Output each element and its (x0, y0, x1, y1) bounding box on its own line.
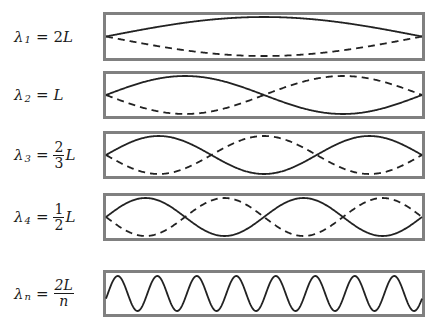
string-panel-hn (103, 270, 425, 317)
dashed-wave-curve (106, 136, 422, 174)
solid-wave-curve (106, 198, 422, 236)
harmonic-subscript: 3 (25, 153, 31, 164)
wavelength-value: L (65, 146, 75, 164)
solid-wave-curve (106, 276, 422, 311)
wavelength-label-hn: λ n = 2L n (14, 274, 75, 314)
lambda-symbol: λ (14, 86, 24, 104)
dashed-wave-curve (106, 37, 422, 57)
string-panel-h3 (103, 131, 425, 179)
wavelength-label-h1: λ 1 = 2L (14, 17, 73, 57)
harmonic-subscript: 4 (25, 215, 31, 226)
solid-wave-curve (106, 76, 422, 114)
wavelength-value: 2L (53, 28, 73, 46)
lambda-symbol: λ (14, 285, 24, 303)
standing-wave-plot (106, 15, 422, 58)
wavelength-label-h4: λ 4 = 1 2 L (14, 197, 75, 237)
fraction-numerator: 2 (53, 140, 64, 156)
lambda-symbol: λ (14, 208, 24, 226)
wavelength-label-h3: λ 3 = 2 3 L (14, 135, 75, 175)
equals-sign: = (36, 86, 49, 104)
fraction-numerator: 1 (53, 202, 64, 218)
equals-sign: = (36, 285, 49, 303)
standing-wave-plot (106, 273, 422, 314)
harmonic-subscript: 1 (25, 34, 31, 45)
wavelength-label-h2: λ 2 = L (14, 75, 63, 115)
equals-sign: = (36, 28, 49, 46)
lambda-symbol: λ (14, 146, 24, 164)
lambda-symbol: λ (14, 28, 24, 46)
solid-wave-curve (106, 136, 422, 174)
standing-wave-plot (106, 134, 422, 176)
harmonic-subscript: n (25, 291, 31, 302)
fraction-numerator: 2L (54, 278, 74, 294)
string-panel-h4 (103, 193, 425, 241)
standing-wave-plot (106, 196, 422, 238)
wavelength-value: L (53, 86, 63, 104)
standing-wave-plot (106, 74, 422, 116)
fraction: 2L n (54, 278, 74, 309)
harmonic-subscript: 2 (25, 93, 31, 104)
fraction: 2 3 (53, 140, 64, 171)
fraction-denominator: 3 (53, 156, 64, 171)
fraction: 1 2 (53, 202, 64, 233)
solid-wave-curve (106, 17, 422, 37)
fraction-denominator: 2 (53, 218, 64, 233)
fraction-denominator: n (58, 294, 69, 309)
wavelength-value: L (65, 208, 75, 226)
equals-sign: = (36, 146, 49, 164)
string-panel-h1 (103, 12, 425, 61)
equals-sign: = (36, 208, 49, 226)
string-panel-h2 (103, 71, 425, 119)
